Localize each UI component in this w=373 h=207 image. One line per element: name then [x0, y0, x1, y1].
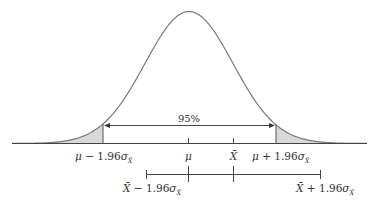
interval-lower-label: X̄ − 1.96σX̄: [122, 182, 182, 197]
interval-upper-label: X̄ + 1.96σX̄: [295, 182, 355, 197]
upper-bound-label: μ + 1.96σX̄: [252, 150, 310, 165]
lower-bound-label: μ − 1.96σX̄: [75, 150, 133, 165]
mu-label: μ: [185, 150, 192, 162]
area-label: 95%: [178, 113, 200, 124]
xbar-label: X̄: [229, 150, 238, 162]
confidence-interval-diagram: 95% μ − 1.96σX̄ μ X̄ μ + 1.96σX̄ X̄ − 1.…: [0, 0, 373, 207]
